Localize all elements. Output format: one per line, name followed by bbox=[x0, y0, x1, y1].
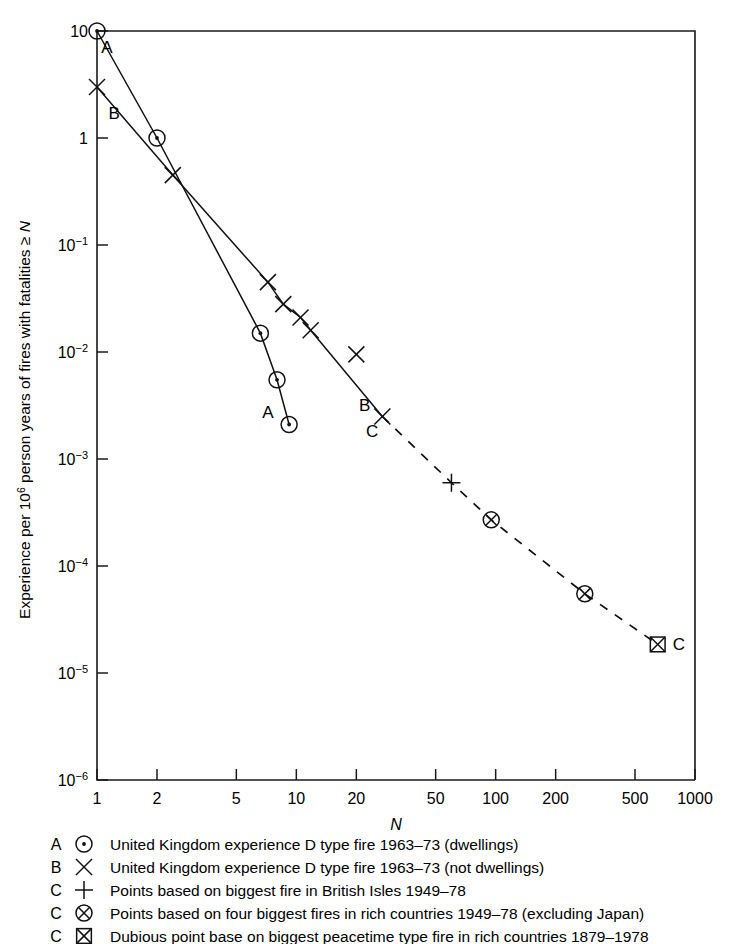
legend-item[interactable]: BUnited Kingdom experience D type fire 1… bbox=[51, 859, 545, 876]
y-tick-label: 10−6 bbox=[58, 770, 88, 789]
marker-circle-dot bbox=[76, 836, 92, 852]
legend-letter: C bbox=[50, 928, 62, 944]
series-line-A bbox=[97, 31, 289, 425]
legend-label: Points based on four biggest fires in ri… bbox=[110, 905, 644, 922]
series-C-dashed bbox=[382, 416, 657, 644]
series-C2 bbox=[483, 512, 593, 602]
marker-circle-cross bbox=[577, 586, 593, 602]
legend-label: Dubious point base on biggest peacetime … bbox=[110, 928, 649, 944]
legend-label: Points based on biggest fire in British … bbox=[110, 882, 466, 899]
legend: AUnited Kingdom experience D type fire 1… bbox=[50, 836, 648, 944]
series-A bbox=[89, 23, 297, 433]
x-tick-label: 200 bbox=[542, 790, 569, 807]
curve-label: B bbox=[109, 104, 120, 123]
y-tick-label: 1 bbox=[79, 130, 88, 147]
legend-item[interactable]: AUnited Kingdom experience D type fire 1… bbox=[51, 836, 519, 853]
legend-letter: C bbox=[50, 905, 62, 922]
x-tick-label: 1 bbox=[93, 790, 102, 807]
curve-label: A bbox=[262, 403, 274, 422]
y-tick-label: 10−3 bbox=[58, 449, 88, 468]
y-tick-label: 10−5 bbox=[58, 663, 88, 682]
curve-label: B bbox=[359, 396, 370, 415]
y-axis-title-part1: Experience per 10 bbox=[16, 493, 33, 619]
legend-item[interactable]: CPoints based on four biggest fires in r… bbox=[50, 905, 644, 922]
marker-cross-x bbox=[348, 346, 364, 362]
legend-letter: A bbox=[51, 836, 62, 853]
marker-circle-dot bbox=[281, 417, 297, 433]
legend-letter: B bbox=[51, 859, 62, 876]
figure-container: Experience per 106 person years of fires… bbox=[0, 0, 750, 944]
legend-item[interactable]: CPoints based on biggest fire in British… bbox=[50, 881, 466, 899]
curve-label: C bbox=[366, 422, 378, 441]
y-tick-label: 10 bbox=[70, 23, 88, 40]
series-C bbox=[442, 474, 460, 492]
y-tick-label: 10−4 bbox=[58, 556, 88, 575]
x-tick-label: 20 bbox=[347, 790, 365, 807]
marker-cross-x bbox=[275, 296, 291, 312]
x-tick-label: 500 bbox=[622, 790, 649, 807]
y-axis-title-italic-n: N bbox=[16, 220, 33, 232]
marker-plus bbox=[75, 881, 93, 899]
x-tick-label: 2 bbox=[153, 790, 162, 807]
marker-cross-x bbox=[293, 310, 309, 326]
series-line-C bbox=[382, 416, 657, 644]
log-log-chart: Experience per 106 person years of fires… bbox=[0, 0, 750, 944]
marker-circle-cross bbox=[483, 512, 499, 528]
y-axis-title-part2: person years of fires with fatalities ≥ bbox=[16, 232, 33, 487]
svg-text:Experience per 106 person year: Experience per 106 person years of fires… bbox=[15, 220, 33, 619]
y-axis-ticks: 10110−110−210−310−410−510−6 bbox=[58, 23, 108, 789]
marker-cross-x bbox=[165, 167, 181, 183]
plot-frame bbox=[97, 31, 695, 780]
curve-annotations: ABABCC bbox=[101, 38, 685, 654]
legend-label: United Kingdom experience D type fire 19… bbox=[110, 836, 518, 853]
marker-square-cross bbox=[650, 637, 665, 652]
marker-circle-cross bbox=[76, 905, 92, 921]
marker-plus bbox=[442, 474, 460, 492]
legend-letter: C bbox=[50, 882, 62, 899]
legend-item[interactable]: CDubious point base on biggest peacetime… bbox=[50, 928, 648, 944]
series-C3 bbox=[650, 637, 665, 652]
curve-label: C bbox=[673, 635, 685, 654]
series-line-B bbox=[97, 87, 382, 416]
marker-circle-dot bbox=[149, 130, 165, 146]
series-B bbox=[89, 79, 390, 424]
y-tick-label: 10−2 bbox=[58, 342, 88, 361]
marker-cross-x bbox=[260, 274, 276, 290]
x-axis-title: N bbox=[390, 816, 402, 833]
y-axis-title: Experience per 106 person years of fires… bbox=[15, 220, 33, 619]
x-tick-label: 5 bbox=[232, 790, 241, 807]
x-tick-label: 100 bbox=[482, 790, 509, 807]
x-tick-label: 50 bbox=[427, 790, 445, 807]
x-tick-label: 1000 bbox=[677, 790, 713, 807]
x-tick-label: 10 bbox=[287, 790, 305, 807]
legend-label: United Kingdom experience D type fire 19… bbox=[110, 859, 544, 876]
marker-circle-dot bbox=[269, 372, 285, 388]
marker-cross-x bbox=[76, 859, 92, 875]
x-axis-ticks: 1251020501002005001000 bbox=[93, 769, 713, 807]
curve-label: A bbox=[101, 38, 113, 57]
marker-cross-x bbox=[303, 322, 319, 338]
data-series-layer bbox=[89, 23, 665, 652]
marker-circle-dot bbox=[252, 325, 268, 341]
y-tick-label: 10−1 bbox=[58, 235, 88, 254]
marker-square-cross bbox=[77, 929, 92, 944]
